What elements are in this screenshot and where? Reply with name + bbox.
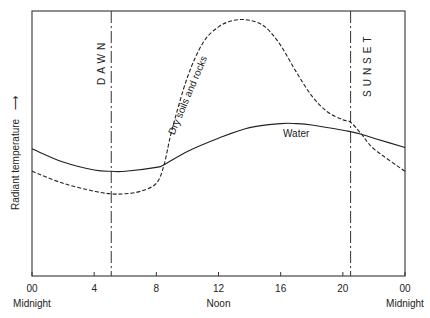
dawn-label: DAWN: [96, 39, 107, 85]
x-tick-label: 12: [213, 283, 224, 294]
sunset-label: SUNSET: [362, 32, 373, 97]
x-tick-label: 4: [91, 283, 97, 294]
x-tick-sublabel: Midnight: [386, 298, 424, 309]
x-tick-label: 8: [154, 283, 160, 294]
y-axis-label: Radiant temperature ⟶: [10, 96, 21, 210]
x-tick-sublabel: Noon: [207, 298, 231, 309]
x-tick-label: 00: [399, 283, 410, 294]
x-tick-sublabel: Midnight: [13, 298, 51, 309]
plot-frame: [32, 11, 405, 276]
x-tick-label: 16: [275, 283, 286, 294]
x-axis-ticks: [32, 272, 405, 276]
x-tick-label: 20: [337, 283, 348, 294]
water-curve: [32, 123, 405, 171]
dry-soils-rocks-curve: [32, 19, 405, 194]
y-axis-label-text: Radiant temperature: [10, 119, 21, 210]
up-arrow-icon: ⟶: [10, 96, 21, 110]
water-label: Water: [283, 128, 309, 139]
x-tick-label: 00: [26, 283, 37, 294]
